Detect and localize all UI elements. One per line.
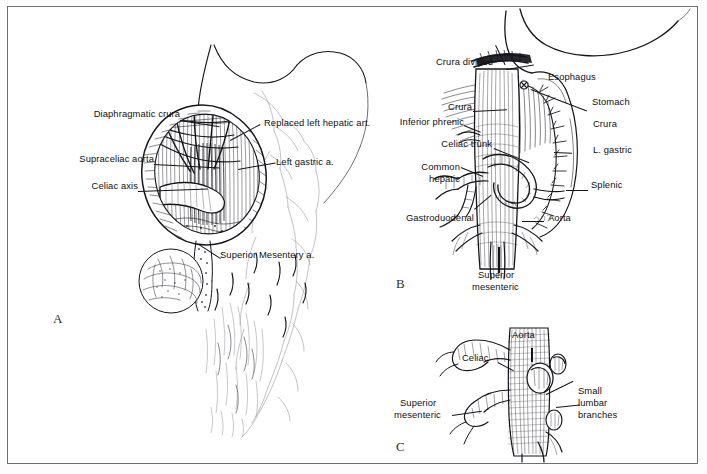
plate-frame: Diaphragmatic crura Supraceliac aorta Ce… xyxy=(7,6,698,464)
label-celiac-axis: Celiac axis xyxy=(8,181,140,192)
label-lumbar: lumbar xyxy=(578,398,607,409)
panel-b-artwork xyxy=(388,7,699,307)
panel-a: Diaphragmatic crura Supraceliac aorta Ce… xyxy=(8,7,388,437)
label-celiac-c: Celiac xyxy=(462,353,489,364)
label-esophagus: Esophagus xyxy=(548,72,596,83)
panel-letter-c: C xyxy=(396,440,405,453)
panel-a-artwork xyxy=(8,7,388,437)
label-superior-b: Superior xyxy=(478,270,514,281)
panel-b: Crura divided Esophagus Stomach Crura Cr… xyxy=(388,7,699,307)
label-replaced-left-hepatic-art: Replaced left hepatic art. xyxy=(264,118,370,129)
label-crura-divided: Crura divided xyxy=(436,57,493,68)
label-superior-mesentery-a: Superior Mesentery a. xyxy=(220,250,314,261)
label-crura-right: Crura xyxy=(593,119,617,130)
label-common: Common xyxy=(388,162,462,173)
label-splenic: Splenic xyxy=(591,180,622,191)
label-aorta-b: Aorta xyxy=(548,213,571,224)
label-left-gastric-a: Left gastric a. xyxy=(276,157,334,168)
label-l-gastric: L. gastric xyxy=(593,145,632,156)
label-crura-left: Crura xyxy=(388,102,474,113)
label-gastroduodenal: Gastroduodenal xyxy=(388,213,476,224)
leader-aorta-b xyxy=(522,221,544,222)
label-stomach: Stomach xyxy=(592,97,630,108)
label-hepatic: hepatic xyxy=(388,174,462,185)
label-mesenteric-b: mesenteric xyxy=(472,282,519,293)
label-superior-c: Superior xyxy=(400,398,436,409)
panel-c-artwork xyxy=(388,312,699,462)
label-inferior-phrenic: Inferior phrenic xyxy=(388,117,466,128)
label-aorta-c: Aorta xyxy=(512,330,535,341)
label-supraceliac-aorta: Supraceliac aorta xyxy=(8,154,156,165)
label-diaphragmatic-crura: Diaphragmatic crura xyxy=(8,109,182,120)
panel-letter-a: A xyxy=(53,312,62,325)
panel-c: Aorta Celiac Superior mesenteric Small l… xyxy=(388,312,699,462)
illustration-plate: Diaphragmatic crura Supraceliac aorta Ce… xyxy=(0,0,707,474)
leader-splenic xyxy=(566,190,588,191)
panel-letter-b: B xyxy=(396,277,405,290)
label-branches: branches xyxy=(578,410,617,421)
label-small: Small xyxy=(578,386,602,397)
leader-aorta-c xyxy=(531,348,533,362)
label-celiac-trunk: Celiac trunk xyxy=(388,139,494,150)
label-mesenteric-c: mesenteric xyxy=(394,410,441,421)
